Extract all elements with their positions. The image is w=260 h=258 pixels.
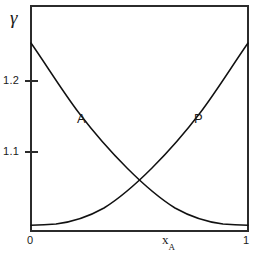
curve-p [31, 43, 248, 225]
curve-label-a: A [77, 111, 86, 126]
x-tick-label-0: 0 [27, 234, 33, 246]
x-axis-label: xA [162, 232, 175, 250]
plot-canvas [0, 0, 260, 258]
x-tick-label-1: 1 [243, 234, 249, 246]
activity-coefficient-chart: γ 1.2 1.1 0 1 xA A P [0, 0, 260, 258]
y-tick-label-1-1: 1.1 [3, 145, 19, 157]
y-tick-label-1-2: 1.2 [3, 74, 19, 86]
x-axis-label-base: x [162, 232, 169, 247]
x-axis-label-subscript: A [169, 242, 176, 252]
curve-label-p: P [194, 111, 203, 126]
curve-a [31, 43, 248, 225]
plot-frame [31, 6, 248, 231]
y-axis-label: γ [10, 8, 18, 27]
